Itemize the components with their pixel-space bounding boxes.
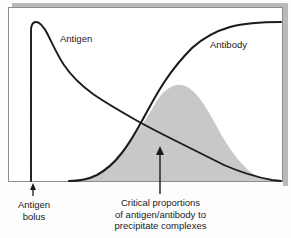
critical-proportions-caption-line-3: precipitate complexes [83,220,238,232]
antigen-bolus-caption-line-2: bolus [3,211,65,223]
antibody-curve-label: Antibody [210,39,247,51]
antigen-antibody-figure: Antigen Antibody Antigen bolus Critical … [0,0,291,238]
critical-proportions-caption-line-1: Critical proportions [83,197,238,209]
critical-proportions-caption: Critical proportions of antigen/antibody… [83,197,238,232]
antigen-bolus-arrow [30,183,36,196]
antigen-bolus-caption: Antigen bolus [3,199,65,222]
antigen-curve-label: Antigen [60,33,92,45]
antigen-bolus-caption-line-1: Antigen [3,199,65,211]
critical-proportions-caption-line-2: of antigen/antibody to [83,209,238,221]
